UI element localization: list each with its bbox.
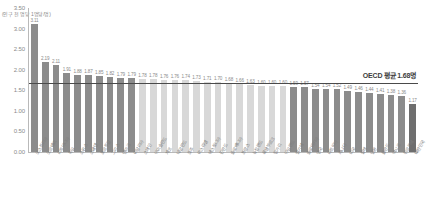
bar-group: 1.76 <box>161 8 168 152</box>
bar-group: 1.49 <box>344 8 351 152</box>
y-axis-tick: 2.50 <box>14 46 25 52</box>
bar-group: 1.46 <box>355 8 362 152</box>
y-axis-tick: 0.00 <box>14 149 25 155</box>
bar-group: 1.63 <box>247 8 254 152</box>
bar-group: 1.52 <box>334 8 341 152</box>
bar-group: 1.78 <box>139 8 146 152</box>
bar-value-label: 1.74 <box>182 74 190 79</box>
bar-group: 1.79 <box>128 8 135 152</box>
bar <box>96 76 103 152</box>
bar <box>74 75 81 152</box>
bar-value-label: 1.46 <box>354 86 362 91</box>
bar-group: 1.70 <box>215 8 222 152</box>
bar-group: 1.57 <box>301 8 308 152</box>
bar <box>366 93 373 152</box>
bar-value-label: 1.87 <box>84 69 92 74</box>
bar-group: 1.60 <box>269 8 276 152</box>
y-axis: (인구 천 명당 1명당/명) 0.000.501.001.502.002.50… <box>0 0 28 197</box>
bar <box>128 78 135 152</box>
bar-value-label: 1.76 <box>171 74 179 79</box>
y-axis-tick: 0.50 <box>14 128 25 134</box>
bar-group: 1.71 <box>204 8 211 152</box>
bar-value-label: 2.19 <box>41 56 49 61</box>
bar <box>172 80 179 152</box>
oecd-average-label: OECD 평균 1.68명 <box>363 72 416 80</box>
y-axis-tick: 2.00 <box>14 67 25 73</box>
bar <box>301 87 308 152</box>
bar-group: 1.17 <box>409 8 416 152</box>
bar <box>193 81 200 152</box>
bar-value-label: 1.78 <box>149 73 157 78</box>
bar-value-label: 1.91 <box>63 67 71 72</box>
bar-value-label: 1.73 <box>192 75 200 80</box>
bar-group: 1.59 <box>290 8 297 152</box>
bar-group: 1.76 <box>172 8 179 152</box>
bar-group: 1.79 <box>117 8 124 152</box>
bar-group: 1.54 <box>323 8 330 152</box>
bar-group: 1.44 <box>366 8 373 152</box>
bar-group: 1.60 <box>280 8 287 152</box>
bar-group: 1.41 <box>377 8 384 152</box>
bar-group: 2.19 <box>42 8 49 152</box>
bar-group: 3.11 <box>31 8 38 152</box>
bar-value-label: 1.44 <box>365 87 373 92</box>
bar-value-label: 1.17 <box>408 98 416 103</box>
bar-value-label: 1.76 <box>160 74 168 79</box>
bar-group: 1.78 <box>150 8 157 152</box>
y-axis-tick: 3.50 <box>14 5 25 11</box>
bar <box>344 91 351 152</box>
bar-value-label: 1.88 <box>73 69 81 74</box>
bar-group: 1.88 <box>74 8 81 152</box>
bar-group: 1.73 <box>193 8 200 152</box>
y-axis-tick: 1.00 <box>14 108 25 114</box>
bar <box>280 86 287 152</box>
bar-group: 1.85 <box>96 8 103 152</box>
bar <box>323 89 330 152</box>
bar-group: 1.38 <box>388 8 395 152</box>
bar-value-label: 3.11 <box>30 18 38 23</box>
oecd-average-line <box>29 83 418 84</box>
bar <box>117 78 124 152</box>
bar-group: 1.74 <box>182 8 189 152</box>
bar <box>247 85 254 152</box>
bar-value-label: 1.38 <box>387 89 395 94</box>
bar-group: 1.60 <box>258 8 265 152</box>
y-axis-tick: 1.50 <box>14 87 25 93</box>
bar <box>150 79 157 152</box>
bar-value-label: 1.71 <box>203 76 211 81</box>
bar-group: 1.54 <box>312 8 319 152</box>
bar-group: 1.91 <box>63 8 70 152</box>
bar <box>377 94 384 152</box>
bar <box>85 75 92 152</box>
bar-value-label: 1.85 <box>95 70 103 75</box>
x-axis-labels: 오스트리아노르웨이리투아니아독일스위스스웨덴포르투갈그리스덴마크이탈리아스페인아… <box>29 153 418 197</box>
bar-group: 1.87 <box>85 8 92 152</box>
bar-value-label: 1.52 <box>333 83 341 88</box>
bar-value-label: 1.70 <box>214 76 222 81</box>
bar-value-label: 1.68 <box>225 77 233 82</box>
bar-value-label: 1.36 <box>398 90 406 95</box>
bar-group: 1.82 <box>107 8 114 152</box>
bar-group: 1.68 <box>226 8 233 152</box>
bar <box>355 92 362 152</box>
bar-value-label: 1.79 <box>127 72 135 77</box>
bar-value-label: 1.49 <box>344 85 352 90</box>
bar-group: 1.36 <box>398 8 405 152</box>
bar-value-label: 1.41 <box>376 88 384 93</box>
plot-area: 3.112.192.111.911.881.871.851.821.791.79… <box>29 8 418 152</box>
bar-value-label: 2.11 <box>52 59 60 64</box>
bar <box>226 83 233 152</box>
bar-value-label: 1.79 <box>117 72 125 77</box>
bar-group: 2.11 <box>53 8 60 152</box>
bar-group: 1.66 <box>236 8 243 152</box>
bar-value-label: 1.82 <box>106 71 114 76</box>
y-axis-tick: 3.00 <box>14 26 25 32</box>
bar-value-label: 1.78 <box>138 73 146 78</box>
bar <box>31 24 38 152</box>
